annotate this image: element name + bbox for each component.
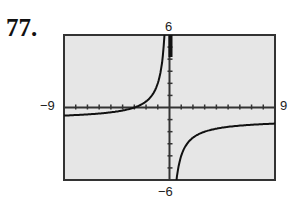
curve-spike — [169, 35, 173, 57]
graph-window — [0, 0, 295, 205]
